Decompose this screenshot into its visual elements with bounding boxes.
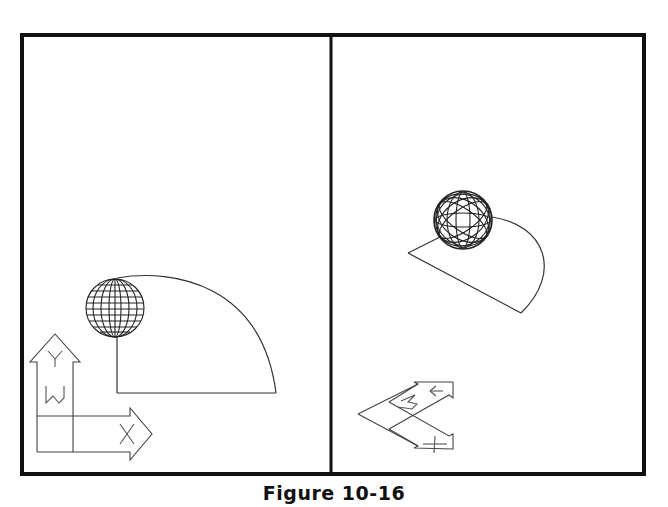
viewport-frame [22, 35, 644, 474]
ucs-y-arrow [30, 334, 80, 452]
right-viewport [358, 183, 544, 453]
ucs-w-label [46, 386, 64, 403]
quarter-round-region-iso [408, 217, 544, 313]
ucs-w-label-iso [398, 395, 417, 409]
quarter-round-region [117, 276, 276, 393]
wireframe-sphere [86, 279, 144, 337]
ucs-x-arrow [37, 408, 152, 460]
ucs-x-arrow-iso [358, 402, 453, 449]
left-viewport [30, 276, 276, 460]
ucs-x-label [120, 424, 134, 444]
wireframe-sphere-iso [426, 183, 501, 256]
ucs-y-label-iso [430, 386, 443, 396]
ucs-y-label [48, 351, 62, 367]
ucs-x-label-iso [423, 436, 447, 453]
figure-caption: Figure 10-16 [0, 482, 668, 504]
ucs-icon-iso [358, 382, 453, 453]
ucs-icon [30, 334, 152, 460]
